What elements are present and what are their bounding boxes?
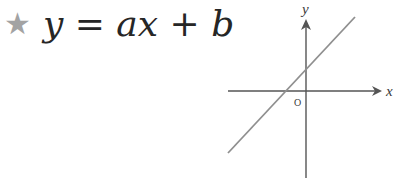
origin-label: O xyxy=(294,97,301,108)
y-axis-label: y xyxy=(300,1,309,17)
function-line xyxy=(228,17,355,153)
linear-function-graph: x y O xyxy=(0,0,412,193)
x-axis-label: x xyxy=(385,83,393,99)
